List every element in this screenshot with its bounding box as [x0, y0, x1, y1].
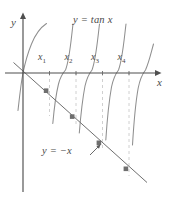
- line-label-pointer-shaft: [90, 146, 99, 155]
- tan-branch-4: [133, 44, 154, 145]
- tan-branch-0: [18, 24, 47, 111]
- tangent-line-intersection-figure: y x y = tan x y = −x x1 x2 x3 x4: [0, 0, 169, 198]
- intersection-marker-3: [97, 141, 102, 146]
- figure-canvas: [0, 0, 169, 198]
- root-label-x2: x2: [65, 52, 73, 65]
- root-label-x1-sub: 1: [42, 57, 46, 65]
- asymptote-group: [50, 73, 130, 176]
- y-axis-arrowhead: [20, 13, 26, 20]
- tan-branch-3: [106, 24, 126, 140]
- tan-branch-1: [53, 24, 73, 124]
- root-label-x4: x4: [118, 52, 126, 65]
- line-label: y = −x: [42, 146, 72, 157]
- intersection-marker-4: [124, 167, 129, 172]
- root-label-x1: x1: [38, 52, 46, 65]
- root-label-x3-sub: 3: [95, 57, 99, 65]
- line-y-equals-minus-x: [14, 63, 148, 183]
- intersection-marker-1: [44, 88, 49, 93]
- root-label-x4-sub: 4: [122, 57, 126, 65]
- root-label-x2-sub: 2: [69, 57, 73, 65]
- y-axis-label: y: [11, 17, 16, 28]
- tan-curve-label: y = tan x: [73, 15, 113, 26]
- tan-branch-2: [79, 24, 99, 133]
- axes-group: [5, 13, 162, 193]
- intersection-marker-2: [70, 114, 75, 119]
- root-label-x3: x3: [91, 52, 99, 65]
- x-axis-label: x: [157, 77, 162, 88]
- line-label-pointer: [90, 145, 101, 156]
